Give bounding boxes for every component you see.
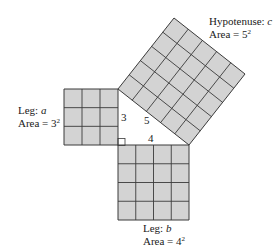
leg-a-square <box>64 89 118 145</box>
side-a-length: 3 <box>121 111 127 123</box>
leg-a-label: Leg: a Area = 32 <box>18 104 60 130</box>
hypotenuse-label: Hypotenuse: c Area = 52 <box>209 15 272 41</box>
side-b-length: 4 <box>148 132 154 144</box>
right-angle-marker <box>118 139 125 146</box>
leg-b-label: Leg: b Area = 42 <box>143 222 185 246</box>
leg-b-square <box>118 145 189 220</box>
side-c-length: 5 <box>144 114 150 126</box>
